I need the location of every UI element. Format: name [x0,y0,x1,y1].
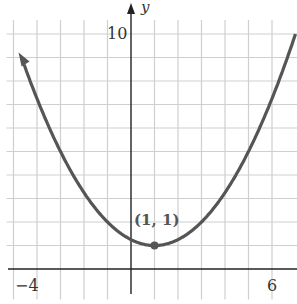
x-tick-label-neg4: −4 [15,276,39,295]
plot-area [0,0,297,304]
vertex-label: (1, 1) [134,211,180,229]
y-axis-arrow-icon [127,3,135,14]
y-tick-label-10: 10 [107,24,127,43]
x-tick-label-6: 6 [267,276,277,295]
chart: y 10 −4 6 (1, 1) [0,0,297,304]
y-axis-label: y [141,0,149,16]
curve-arrow-icon [19,53,30,67]
vertex-point [151,242,159,250]
